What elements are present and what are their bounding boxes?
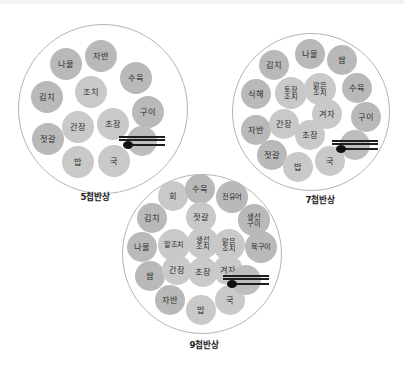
dish-circle[interactable]: 토장 조치	[275, 77, 307, 109]
setting-caption: 5첩반상	[55, 190, 135, 202]
dish-circle[interactable]: 수육	[120, 62, 152, 94]
spoon-bowl	[227, 280, 237, 288]
dish-circle[interactable]: 나물	[127, 232, 157, 262]
dish-circle[interactable]: 구이	[351, 102, 381, 132]
spoon-and-chopsticks-icon	[223, 265, 269, 295]
dish-circle[interactable]: 밥	[283, 152, 313, 182]
dish-circle[interactable]: 식해	[241, 79, 271, 109]
spoon-bowl	[336, 145, 346, 153]
dish-circle[interactable]: 밥	[186, 295, 216, 325]
dish-circle[interactable]: 김치	[31, 81, 63, 113]
chopstick-line	[119, 136, 165, 138]
spoon-and-chopsticks-icon	[332, 130, 378, 160]
dish-circle[interactable]: 자반	[85, 40, 117, 72]
setting-caption: 7첩반상	[280, 193, 360, 205]
dish-circle[interactable]: 조치	[75, 76, 107, 108]
dish-circle[interactable]: 나물	[295, 39, 325, 69]
spoon-and-chopsticks-icon	[119, 126, 165, 156]
chopstick-line	[223, 275, 269, 277]
dish-circle[interactable]: 자반	[155, 285, 185, 315]
spoon-bowl	[123, 141, 133, 149]
dish-circle[interactable]: 밥	[62, 146, 94, 178]
dish-circle[interactable]: 김치	[259, 50, 289, 80]
chopstick-line	[332, 140, 378, 142]
dish-circle[interactable]: 구이	[132, 96, 164, 128]
dish-circle[interactable]: 육구이	[245, 231, 277, 263]
dish-circle[interactable]: 쌈	[135, 261, 165, 291]
dish-circle[interactable]: 젓갈	[32, 123, 64, 155]
utensil-disc	[340, 130, 370, 160]
setting-caption: 9첩반상	[164, 338, 244, 350]
dish-circle[interactable]: 쌈	[327, 45, 357, 75]
dish-circle[interactable]: 초장	[295, 120, 325, 150]
top-band-divider	[0, 0, 404, 4]
figure-canvas: 나물자반수육김치조치구이젓갈간장초장밥국나물쌈김치토장 조치맑은 조치수육식해겨…	[0, 0, 404, 366]
dish-circle[interactable]: 간장	[62, 111, 94, 143]
dish-circle[interactable]: 수육	[342, 73, 372, 103]
utensil-disc	[231, 265, 261, 295]
dish-circle[interactable]: 수육	[185, 174, 215, 204]
utensil-disc	[127, 126, 157, 156]
dish-circle[interactable]: 김치	[137, 203, 167, 233]
dish-circle[interactable]: 나물	[50, 48, 82, 80]
